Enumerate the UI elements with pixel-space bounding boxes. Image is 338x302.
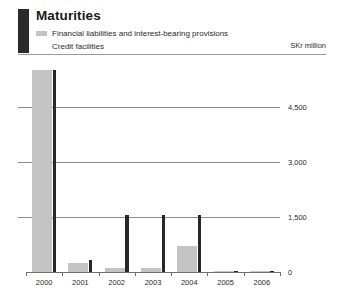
x-tick-label-2006: 2006 xyxy=(254,278,271,287)
x-tick-label-2000: 2000 xyxy=(36,278,53,287)
bar-group-2006 xyxy=(250,70,274,272)
y-tick-label: 4,500 xyxy=(288,102,307,111)
x-tick-label-2004: 2004 xyxy=(181,278,198,287)
bar-2002-series-2 xyxy=(125,215,129,272)
x-tick-label-2001: 2001 xyxy=(72,278,89,287)
chart-plot: 4,5003,0001,5000 20002001200220032004200… xyxy=(0,0,338,302)
x-tick-mark xyxy=(280,272,281,276)
x-tick-label-2002: 2002 xyxy=(108,278,125,287)
bar-2003-series-2 xyxy=(162,215,166,272)
x-tick-label-2005: 2005 xyxy=(217,278,234,287)
bar-group-2003 xyxy=(141,70,165,272)
bar-group-2002 xyxy=(105,70,129,272)
x-tick-label-2003: 2003 xyxy=(145,278,162,287)
x-tick-mark xyxy=(207,272,208,276)
bar-group-2001 xyxy=(68,70,92,272)
y-tick-mark xyxy=(18,107,26,108)
plot-area: 4,5003,0001,5000 20002001200220032004200… xyxy=(26,70,280,272)
x-tick-mark xyxy=(26,272,27,276)
bar-2000-series-1 xyxy=(32,70,52,272)
x-tick-mark xyxy=(171,272,172,276)
bar-2004-series-2 xyxy=(198,215,202,272)
bar-2000-series-2 xyxy=(53,70,57,272)
bar-group-2000 xyxy=(32,70,56,272)
x-tick-mark xyxy=(244,272,245,276)
x-tick-mark xyxy=(99,272,100,276)
bar-group-2005 xyxy=(214,70,238,272)
bar-2001-series-1 xyxy=(68,263,88,272)
y-tick-label: 3,000 xyxy=(288,157,307,166)
bar-group-2004 xyxy=(177,70,201,272)
x-tick-mark xyxy=(135,272,136,276)
y-tick-label: 1,500 xyxy=(288,212,307,221)
x-tick-mark xyxy=(62,272,63,276)
bar-2004-series-1 xyxy=(177,246,197,272)
axis-baseline xyxy=(26,272,280,273)
y-tick-mark xyxy=(18,162,26,163)
bar-2001-series-2 xyxy=(89,260,93,272)
y-tick-label: 0 xyxy=(288,268,292,277)
y-tick-mark xyxy=(18,217,26,218)
